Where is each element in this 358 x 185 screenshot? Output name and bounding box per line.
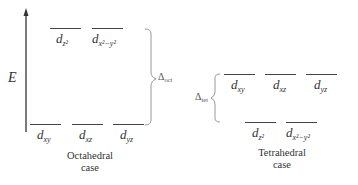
tetrahedral-caption-line1: Tetrahedral (250, 147, 314, 159)
octahedral-caption: Octahedral case (60, 150, 120, 174)
tetrahedral-caption: Tetrahedral case (250, 147, 314, 171)
tet-label-dxz: dxz (273, 77, 286, 94)
oct-label-dxy: dxy (37, 127, 51, 144)
oct-label-dyz: dyz (120, 127, 133, 144)
tet-label-dxy: dxy (231, 77, 245, 94)
tet-level-dxy (224, 74, 255, 75)
octahedral-caption-line1: Octahedral (60, 150, 120, 162)
tet-level-dx2y2 (286, 122, 317, 123)
octahedral-brace (145, 29, 156, 125)
oct-level-dz2 (50, 28, 81, 29)
delta-tet-label: Δtet (195, 91, 208, 103)
delta-oct-label: Δoct (158, 71, 172, 83)
tetrahedral-caption-line2: case (250, 159, 314, 171)
tet-label-dyz: dyz (314, 77, 327, 94)
octahedral-caption-line2: case (60, 162, 120, 174)
oct-level-dxz (72, 124, 103, 125)
oct-level-dxy (30, 124, 61, 125)
tetrahedral-brace (211, 74, 220, 122)
oct-label-dx2y2: dx²−y² (92, 31, 116, 48)
oct-label-dxz: dxz (79, 127, 92, 144)
tet-label-dx2y2: dx²−y² (286, 125, 310, 142)
oct-level-dyz (113, 124, 144, 125)
tet-level-dyz (306, 74, 337, 75)
tet-level-dz2 (245, 122, 276, 123)
tet-level-dxz (265, 74, 296, 75)
arrow-up-icon (24, 8, 29, 16)
energy-axis-label: E (8, 70, 17, 86)
tet-label-dz2: dz² (252, 125, 264, 142)
oct-level-dx2y2 (92, 28, 123, 29)
oct-label-dz2: dz² (56, 31, 68, 48)
